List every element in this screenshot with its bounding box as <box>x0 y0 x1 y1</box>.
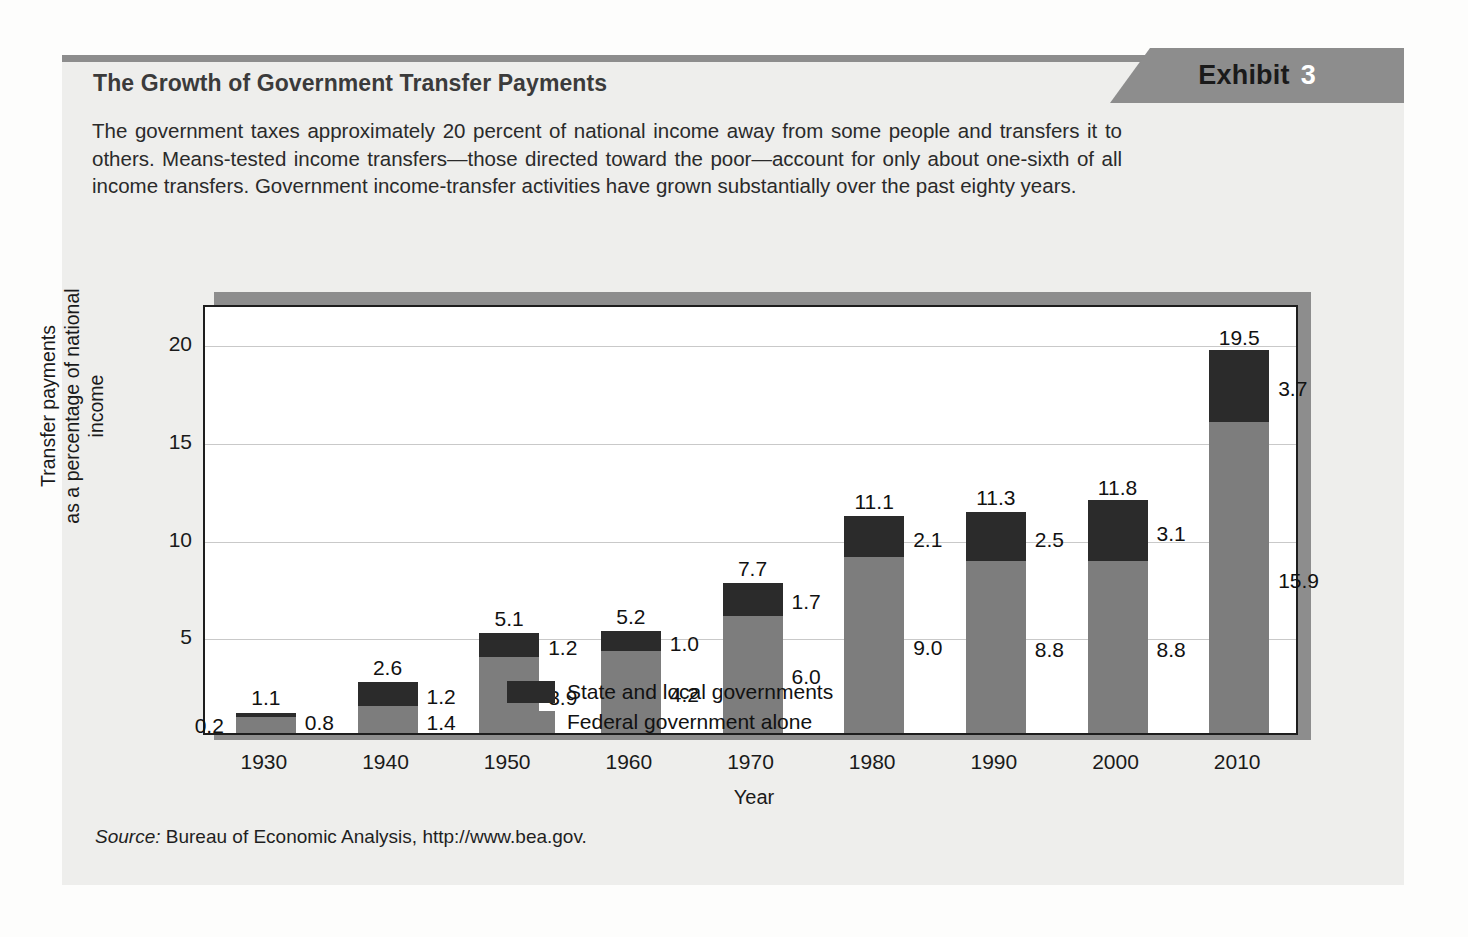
bar-total-label-1960: 5.2 <box>616 605 645 629</box>
bar-federal-label-2000: 8.8 <box>1157 638 1186 662</box>
y-axis-ticks: 5101520 <box>140 292 192 742</box>
gridline <box>205 444 1296 445</box>
y-axis-label: Transfer payments as a percentage of nat… <box>36 256 108 556</box>
bar-total-label-1950: 5.1 <box>495 607 524 631</box>
exhibit-badge-word: Exhibit <box>1198 60 1289 91</box>
bar-segment-federal[interactable] <box>844 557 904 733</box>
bar-total-label-2000: 11.8 <box>1098 476 1137 500</box>
bar-segment-state-local[interactable] <box>479 633 539 656</box>
bar-federal-label-2010: 15.9 <box>1278 569 1319 593</box>
source-text: Bureau of Economic Analysis, http://www.… <box>160 826 586 847</box>
y-tick-label: 20 <box>169 332 192 356</box>
bar-state-local-label-2010: 3.7 <box>1278 377 1307 401</box>
bar-state-local-label-1930: 0.2 <box>195 714 224 738</box>
source-note: Source: Bureau of Economic Analysis, htt… <box>95 826 587 848</box>
bar-state-local-label-1970: 1.7 <box>792 590 821 614</box>
y-axis-label-line2: as a percentage of national income <box>60 256 108 556</box>
bar-segment-state-local[interactable] <box>844 516 904 557</box>
legend: State and local governments Federal gove… <box>507 679 833 739</box>
chart: 1.10.20.82.61.21.45.11.23.95.21.04.27.71… <box>203 292 1311 742</box>
bar-total-label-1940: 2.6 <box>373 656 402 680</box>
bar-state-local-label-1990: 2.5 <box>1035 528 1064 552</box>
bar-total-label-1980: 11.1 <box>854 490 893 514</box>
legend-swatch-federal <box>507 711 555 733</box>
bar-state-local-label-1950: 1.2 <box>548 636 577 660</box>
y-tick-label: 10 <box>169 528 192 552</box>
exhibit-description: The government taxes approximately 20 pe… <box>92 117 1122 200</box>
bar-federal-label-1930: 0.8 <box>305 711 334 735</box>
bar-state-local-label-2000: 3.1 <box>1157 522 1186 546</box>
bar-segment-federal[interactable] <box>1209 422 1269 733</box>
bar-segment-state-local[interactable] <box>358 682 418 705</box>
bar-federal-label-1980: 9.0 <box>913 636 942 660</box>
bar-segment-federal[interactable] <box>358 706 418 733</box>
bar-federal-label-1990: 8.8 <box>1035 638 1064 662</box>
page-title: The Growth of Government Transfer Paymen… <box>93 70 607 97</box>
bar-total-label-1970: 7.7 <box>738 557 767 581</box>
legend-item-state-local: State and local governments <box>507 679 833 705</box>
bar-total-label-1930: 1.1 <box>251 686 280 710</box>
bar-state-local-label-1980: 2.1 <box>913 528 942 552</box>
bar-segment-state-local[interactable] <box>1209 350 1269 422</box>
x-axis-label: Year <box>0 786 1468 809</box>
x-tick-label-1960: 1960 <box>569 750 689 774</box>
bar-segment-state-local[interactable] <box>601 631 661 651</box>
bar-segment-state-local[interactable] <box>236 713 296 717</box>
legend-label-state-local: State and local governments <box>567 680 833 704</box>
x-tick-label-1930: 1930 <box>204 750 324 774</box>
bar-segment-state-local[interactable] <box>723 583 783 616</box>
exhibit-page: Exhibit 3 The Growth of Government Trans… <box>0 0 1468 937</box>
legend-swatch-state-local <box>507 681 555 703</box>
source-label: Source: <box>95 826 160 847</box>
bar-1990[interactable] <box>966 512 1026 733</box>
plot-area: 1.10.20.82.61.21.45.11.23.95.21.04.27.71… <box>203 305 1298 735</box>
bar-segment-federal[interactable] <box>1088 561 1148 733</box>
bar-1930[interactable] <box>236 712 296 734</box>
y-tick-label: 15 <box>169 430 192 454</box>
bar-segment-federal[interactable] <box>236 717 296 733</box>
bar-1940[interactable] <box>358 682 418 733</box>
x-tick-label-2000: 2000 <box>1056 750 1176 774</box>
bar-segment-federal[interactable] <box>966 561 1026 733</box>
bar-federal-label-1940: 1.4 <box>427 711 456 735</box>
bar-state-local-label-1960: 1.0 <box>670 632 699 656</box>
y-axis-label-line1: Transfer payments <box>36 256 60 556</box>
x-tick-label-1950: 1950 <box>447 750 567 774</box>
x-tick-label-2010: 2010 <box>1177 750 1297 774</box>
bar-2010[interactable] <box>1209 352 1269 733</box>
exhibit-badge-number: 3 <box>1301 60 1316 91</box>
x-tick-label-1970: 1970 <box>691 750 811 774</box>
bar-1980[interactable] <box>844 516 904 733</box>
legend-label-federal: Federal government alone <box>567 710 812 734</box>
x-tick-label-1980: 1980 <box>812 750 932 774</box>
y-tick-label: 5 <box>180 625 192 649</box>
bar-2000[interactable] <box>1088 502 1148 733</box>
bar-segment-state-local[interactable] <box>1088 500 1148 561</box>
gridline <box>205 346 1296 347</box>
exhibit-badge: Exhibit 3 <box>1110 48 1404 103</box>
bar-state-local-label-1940: 1.2 <box>427 685 456 709</box>
x-tick-label-1940: 1940 <box>326 750 446 774</box>
bar-segment-state-local[interactable] <box>966 512 1026 561</box>
legend-item-federal: Federal government alone <box>507 709 833 735</box>
bar-total-label-2010: 19.5 <box>1219 326 1260 350</box>
x-tick-label-1990: 1990 <box>934 750 1054 774</box>
bar-total-label-1990: 11.3 <box>976 486 1015 510</box>
